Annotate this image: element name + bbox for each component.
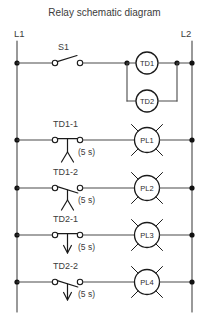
schematic-canvas: Relay schematic diagram L1 L2 S1 TD1: [0, 0, 209, 322]
lamp-ray: [156, 197, 163, 204]
switch-label-s1: S1: [58, 42, 69, 52]
lamp-ray: [156, 220, 163, 227]
rung-3: TD1-2 (5 s) PL2: [14, 167, 194, 210]
contact-terminal-left: [52, 185, 57, 190]
lamp-ray: [132, 197, 139, 204]
contact-terminal-right: [77, 232, 82, 237]
rung-5: TD2-2 (5 s) PL4: [14, 261, 194, 300]
delay-label: (5 s): [78, 242, 95, 252]
junction-node: [189, 279, 194, 284]
coil-label: TD1: [140, 59, 154, 68]
actuator-leg-right: [68, 152, 74, 162]
time-delay-tent-icon: [62, 139, 74, 162]
junction-node: [189, 137, 194, 142]
lamp-ray: [156, 291, 163, 298]
lamp-ray: [156, 149, 163, 156]
lamp-ray: [156, 173, 163, 180]
contact-terminal-left: [52, 279, 57, 284]
lamp-ray: [132, 125, 139, 132]
pilot-lamp-pl2: PL2: [132, 173, 163, 204]
timer-coil-td1: TD1: [136, 52, 158, 74]
contact-terminal-left: [52, 232, 57, 237]
lamp-label: PL1: [140, 136, 153, 145]
pilot-lamp-pl4: PL4: [132, 267, 163, 298]
switch-blade: [57, 56, 77, 62]
coil-label: TD2: [140, 97, 154, 106]
time-delay-down-arrow-icon: [64, 284, 72, 300]
lamp-label: PL3: [140, 231, 153, 240]
contact-terminal-right: [77, 137, 82, 142]
delay-label: (5 s): [78, 289, 95, 299]
time-delay-down-arrow-icon: [64, 234, 72, 253]
page-title: Relay schematic diagram: [48, 7, 160, 18]
rung-4: TD2-1 (5 s) PL3: [14, 214, 194, 253]
lamp-ray: [132, 173, 139, 180]
lamp-label: PL2: [140, 184, 153, 193]
lamp-label: PL4: [140, 278, 153, 287]
lamp-ray: [132, 291, 139, 298]
lamp-ray: [156, 244, 163, 251]
rung-2: TD1-1 (5 s) PL1: [14, 119, 194, 162]
lamp-ray: [132, 149, 139, 156]
contact-terminal-right: [77, 185, 82, 190]
actuator-leg-right: [68, 200, 74, 210]
lamp-ray: [156, 267, 163, 274]
actuator-leg-left: [62, 200, 68, 210]
right-rail-label: L2: [181, 28, 192, 39]
lamp-ray: [132, 267, 139, 274]
left-rail-label: L1: [14, 28, 25, 39]
switch-s1[interactable]: [52, 56, 82, 66]
contact-label-td1-1: TD1-1: [53, 119, 78, 129]
actuator-leg-left: [62, 152, 68, 162]
contact-terminal-left: [52, 137, 57, 142]
junction-node: [189, 232, 194, 237]
timer-coil-td2: TD2: [136, 90, 158, 112]
junction-node: [189, 60, 194, 65]
lamp-ray: [156, 125, 163, 132]
delay-label: (5 s): [78, 147, 95, 157]
lamp-ray: [132, 220, 139, 227]
time-delay-tent-icon: [62, 190, 74, 210]
junction-node: [189, 185, 194, 190]
pilot-lamp-pl1: PL1: [132, 125, 163, 156]
lamp-ray: [132, 244, 139, 251]
contact-terminal-right: [77, 60, 82, 65]
contact-label-td2-2: TD2-2: [53, 261, 78, 271]
delay-label: (5 s): [78, 195, 95, 205]
contact-terminal-right: [77, 279, 82, 284]
relay-schematic-diagram: Relay schematic diagram L1 L2 S1 TD1: [0, 0, 209, 322]
contact-label-td2-1: TD2-1: [53, 214, 78, 224]
contact-label-td1-2: TD1-2: [53, 167, 78, 177]
pilot-lamp-pl3: PL3: [132, 220, 163, 251]
rung-1: S1 TD1 TD2: [14, 42, 194, 112]
